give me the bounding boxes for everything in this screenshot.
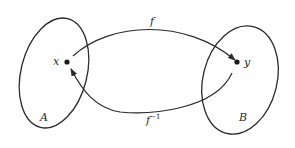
arrow-f-inverse-label: f−1 xyxy=(145,113,160,127)
point-x-label: x xyxy=(53,55,60,68)
arrow-f-inverse-superscript: −1 xyxy=(150,113,160,121)
point-y: y xyxy=(234,56,251,69)
point-x: x xyxy=(53,55,70,68)
arrow-f-curve xyxy=(73,30,235,61)
point-x-dot xyxy=(64,59,69,64)
arrow-f-label: f xyxy=(149,15,156,28)
arrow-f-inverse-curve xyxy=(71,69,232,113)
set-b-label: B xyxy=(238,111,247,124)
set-a: A xyxy=(8,11,99,136)
point-y-dot xyxy=(234,59,239,64)
point-y-label: y xyxy=(243,56,251,69)
set-b: B xyxy=(191,18,289,143)
set-a-ellipse xyxy=(8,11,99,136)
function-mapping-diagram: A B f f−1 x y xyxy=(0,0,295,148)
set-a-label: A xyxy=(39,111,48,124)
